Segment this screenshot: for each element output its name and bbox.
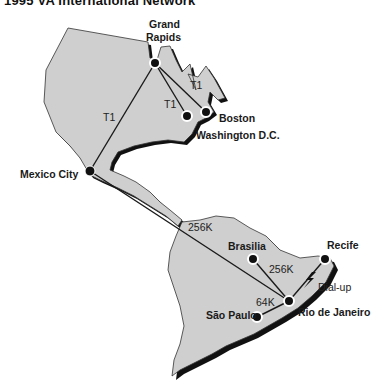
label-washington: Washington D.C. (196, 129, 280, 141)
link-label-256k-brasilia-rio: 256K (269, 263, 294, 275)
node-grand-rapids (150, 58, 160, 68)
label-grand-rapids-1: Grand (149, 18, 180, 30)
label-boston: Boston (219, 112, 255, 124)
label-recife: Recife (327, 239, 359, 251)
node-washington (182, 111, 192, 121)
label-brasilia: Brasilia (228, 240, 266, 252)
label-sao-paulo: São Paulo (206, 309, 257, 321)
network-map: Grand Rapids Boston Washington D.C. Mexi… (0, 0, 379, 389)
label-mexico-city: Mexico City (20, 168, 79, 180)
link-label-dial-up: Dial-up (318, 281, 351, 293)
link-label-t1-washington: T1 (164, 98, 176, 110)
node-recife (320, 254, 330, 264)
label-grand-rapids-2: Rapids (146, 31, 181, 43)
node-mexico-city (85, 166, 95, 176)
link-label-64k: 64K (256, 296, 275, 308)
link-label-256k-mexico-rio: 256K (188, 221, 213, 233)
link-label-t1-boston: T1 (190, 79, 202, 91)
label-rio: Rio de Janeiro (298, 306, 370, 318)
node-brasilia (248, 254, 258, 264)
link-label-t1-mexico: T1 (103, 111, 115, 123)
node-rio (284, 296, 294, 306)
node-boston (201, 107, 211, 117)
